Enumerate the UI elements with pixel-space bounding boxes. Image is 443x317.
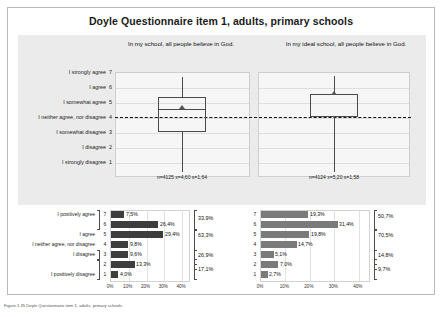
bar-chart-left: I positively agree I agree I neither agr… <box>18 208 223 296</box>
aggregate-label-4: 17,1% <box>198 266 213 272</box>
aggregate-bracket-1 <box>194 210 197 230</box>
bar-category-6: 6 <box>102 221 108 227</box>
bar-value-label-6: 26,4% <box>160 221 175 228</box>
bar2-value-label-3: 5,1% <box>275 251 287 258</box>
bracket-agree-top <box>97 210 100 230</box>
aggregate2-label-4: 9,7% <box>378 266 390 272</box>
boxplot-left-box <box>158 97 206 132</box>
bar-category-5: 5 <box>102 231 108 237</box>
y-axis-value-3: 3 <box>109 129 112 135</box>
bar2-category-4: 4 <box>252 241 258 247</box>
bar-value-5 <box>111 231 163 238</box>
aggregate-label-3: 26,9% <box>198 252 213 258</box>
bar-category-label-3: I disagree <box>18 251 95 257</box>
boxplot-left-lower-whisker <box>182 132 183 172</box>
bar2-value-1 <box>261 271 268 278</box>
y-axis-value-1: 1 <box>109 159 112 165</box>
boxplot-plot-area: I strongly agree7 I agree6 I somewhat ag… <box>18 52 426 205</box>
aggregate-label-2: 63,3% <box>198 232 213 238</box>
page-title: Doyle Questionnaire item 1, adults, prim… <box>8 15 434 27</box>
bar2-value-label-1: 2,7% <box>269 271 281 278</box>
y-axis-value-7: 7 <box>109 69 112 75</box>
boxplot-right-mean-marker <box>331 91 337 95</box>
bar2-category-2: 2 <box>252 261 258 267</box>
bar2-category-6: 6 <box>252 221 258 227</box>
bracket-disagree-bottom <box>97 260 100 280</box>
boxplot-header-right: In my ideal school, all people believe i… <box>266 35 426 52</box>
y-axis-value-2: 2 <box>109 144 112 150</box>
bar2-value-4 <box>261 241 297 248</box>
aggregate2-bracket-1 <box>374 210 377 230</box>
y-axis-label-7: I strongly agree <box>69 69 106 75</box>
boxplot-panel: In my school, all people believe in God.… <box>18 35 426 205</box>
boxplot-y-axis: I strongly agree7 I agree6 I somewhat ag… <box>18 72 113 177</box>
y-axis-label-5: I somewhat agree <box>63 99 106 105</box>
y-axis-value-5: 5 <box>109 99 112 105</box>
bar2-value-3 <box>261 251 274 258</box>
bar-category-label-7: I positively agree <box>18 211 95 217</box>
y-axis-label-1: I strongly disagree <box>62 159 106 165</box>
bar2-value-label-5: 19,8% <box>311 231 326 238</box>
bar-category-2: 2 <box>102 261 108 267</box>
bar-value-label-7: 7,5% <box>126 211 138 218</box>
bar-value-label-1: 4,0% <box>120 271 132 278</box>
x-tick-40: 40% <box>175 284 187 289</box>
bar-category-4: 4 <box>102 241 108 247</box>
bar-value-7 <box>111 211 124 218</box>
boxplot-right-stats: n=4124 x=5,20 s=1,58 <box>284 174 384 180</box>
boxplot-left-mean-marker <box>179 105 185 109</box>
bar-value-4 <box>111 241 128 248</box>
boxplot-left-upper-whisker <box>182 77 183 97</box>
x2-tick-20: 20% <box>303 284 315 289</box>
bar-value-label-3: 9,6% <box>130 251 142 258</box>
y-axis-label-4: I neither agree, nor disagree <box>38 114 106 120</box>
boxplot-left-median <box>158 109 206 110</box>
aggregate-label-1: 33,9% <box>198 215 213 221</box>
bar-value-3 <box>111 251 128 258</box>
bar2-value-label-4: 14,7% <box>298 241 313 248</box>
bar-value-label-2: 13,3% <box>136 261 151 268</box>
bar-value-1 <box>111 271 118 278</box>
bar2-category-3: 3 <box>252 251 258 257</box>
bar2-value-5 <box>261 231 309 238</box>
x2-tick-40: 40% <box>352 284 364 289</box>
y-axis-label-3: I somewhat disagree <box>56 129 106 135</box>
bar-category-label-1: I positively disagree <box>18 271 95 277</box>
bar2-value-2 <box>261 261 278 268</box>
x2-tick-0: 0% <box>254 284 266 289</box>
boxplot-header-left: In my school, all people believe in God. <box>106 35 256 52</box>
y-axis-label-2: I disagree <box>82 144 106 150</box>
figure-container: Doyle Questionnaire item 1, adults, prim… <box>7 7 435 295</box>
x-tick-0: 0% <box>104 284 116 289</box>
bar-category-3: 3 <box>102 251 108 257</box>
y-axis-value-6: 6 <box>109 84 112 90</box>
bracket-disagree-mid <box>97 250 100 260</box>
bar2-value-label-7: 19,3% <box>310 211 325 218</box>
x-tick-20: 20% <box>140 284 152 289</box>
boxplot-right-box <box>310 94 358 117</box>
bar-category-1: 1 <box>102 271 108 277</box>
bar2-category-1: 1 <box>252 271 258 277</box>
y-axis-value-4: 4 <box>109 114 112 120</box>
x2-tick-30: 30% <box>327 284 339 289</box>
bar-value-6 <box>111 221 158 228</box>
bar-category-label-4: I neither agree, nor disagree <box>18 241 95 247</box>
aggregate2-label-1: 50,7% <box>378 213 393 219</box>
boxplot-left-stats: n=4125 x=4,60 s=1,64 <box>132 174 232 180</box>
aggregate2-label-3: 14,8% <box>378 252 393 258</box>
aggregate2-bracket-4 <box>374 264 377 280</box>
x-tick-30: 30% <box>157 284 169 289</box>
bar2-category-7: 7 <box>252 211 258 217</box>
bar2-value-7 <box>261 211 308 218</box>
bar-chart-right: 7 6 5 4 3 2 1 19,3% 31,4% 19,8% <box>226 208 426 296</box>
y-axis-label-6: I agree <box>89 84 106 90</box>
bar-value-label-4: 9,8% <box>130 241 142 248</box>
x-tick-10: 10% <box>122 284 134 289</box>
x2-tick-10: 10% <box>278 284 290 289</box>
boxplot-right-lower-whisker <box>334 117 335 172</box>
bar2-value-label-6: 31,4% <box>339 221 354 228</box>
aggregate-bracket-4 <box>194 264 197 280</box>
bar2-value-label-2: 7,0% <box>280 261 292 268</box>
bar-category-label-5: I agree <box>18 231 95 237</box>
aggregate2-label-2: 70,5% <box>378 232 393 238</box>
